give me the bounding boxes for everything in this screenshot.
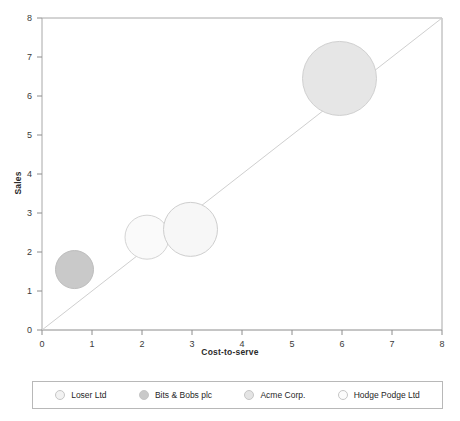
legend-label-bits-bobs-plc: Bits & Bobs plc	[155, 391, 212, 400]
bubble-loser-ltd[interactable]: Loser Ltd	[56, 251, 94, 289]
bubble-bits-bobs-plc[interactable]: Bits & Bobs plc	[125, 215, 169, 259]
legend-item-acme-corp[interactable]: Acme Corp.	[244, 390, 305, 400]
legend-label-hodge-podge-ltd: Hodge Podge Ltd	[354, 391, 420, 400]
chart-plot-area: 012345678012345678 Loser LtdBits & Bobs …	[0, 0, 460, 421]
legend-swatch-bits-bobs-plc	[139, 390, 149, 400]
y-tick-label-4: 4	[27, 169, 32, 179]
legend-label-loser-ltd: Loser Ltd	[71, 391, 106, 400]
y-tick-label-1: 1	[27, 286, 32, 296]
y-tick-label-2: 2	[27, 247, 32, 257]
y-tick-label-7: 7	[27, 52, 32, 62]
y-tick-label-6: 6	[27, 91, 32, 101]
legend-swatch-hodge-podge-ltd	[338, 390, 348, 400]
legend-label-acme-corp: Acme Corp.	[260, 391, 305, 400]
y-tick-label-5: 5	[27, 130, 32, 140]
y-tick-label-3: 3	[27, 208, 32, 218]
y-axis-title: Sales	[13, 153, 23, 213]
legend-swatch-acme-corp	[244, 390, 254, 400]
legend-item-loser-ltd[interactable]: Loser Ltd	[55, 390, 106, 400]
x-axis-title: Cost-to-serve	[0, 347, 460, 357]
bubble-hodge-podge-ltd[interactable]: Hodge Podge Ltd	[303, 41, 377, 115]
legend-item-bits-bobs-plc[interactable]: Bits & Bobs plc	[139, 390, 212, 400]
diagonal-parity-line	[42, 18, 442, 330]
bubble-chart-figure: 012345678012345678 Loser LtdBits & Bobs …	[0, 0, 460, 421]
legend-item-hodge-podge-ltd[interactable]: Hodge Podge Ltd	[338, 390, 420, 400]
y-tick-label-8: 8	[27, 13, 32, 23]
y-tick-label-0: 0	[27, 325, 32, 335]
legend-swatch-loser-ltd	[55, 390, 65, 400]
bubble-acme-corp[interactable]: Acme Corp.	[164, 202, 218, 256]
chart-legend: Loser LtdBits & Bobs plcAcme Corp.Hodge …	[32, 381, 443, 409]
